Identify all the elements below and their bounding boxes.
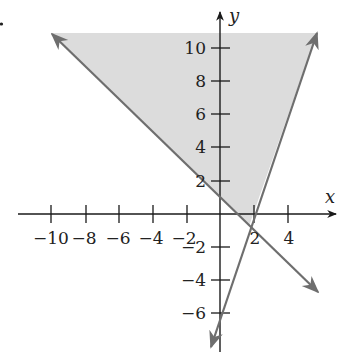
y-tick-label: 2 (195, 171, 206, 191)
x-tick-label: −10 (33, 228, 69, 248)
x-axis-label: x (325, 186, 335, 207)
x-tick-label: 4 (284, 228, 295, 248)
y-tick-label: −6 (181, 303, 206, 323)
y-tick-label: 6 (195, 104, 206, 124)
y-tick-label: 8 (195, 71, 206, 91)
y-tick-label: 10 (184, 38, 206, 58)
problem-label-dot (0, 22, 3, 25)
y-axis-label: y (228, 5, 240, 26)
x-tick-label: −4 (138, 228, 163, 248)
y-tick-label: −2 (181, 237, 206, 257)
x-tick-label: −6 (105, 228, 130, 248)
x-tick-label: −8 (71, 228, 96, 248)
y-tick-label: 4 (195, 137, 206, 157)
x-tick-label: 2 (250, 228, 261, 248)
shaded-region (52, 33, 317, 226)
inequality-graph: x y −10 −8 −6 −4 −2 2 4 10 8 6 4 2 −2 −4… (0, 0, 347, 362)
y-tick-label: −4 (181, 270, 206, 290)
